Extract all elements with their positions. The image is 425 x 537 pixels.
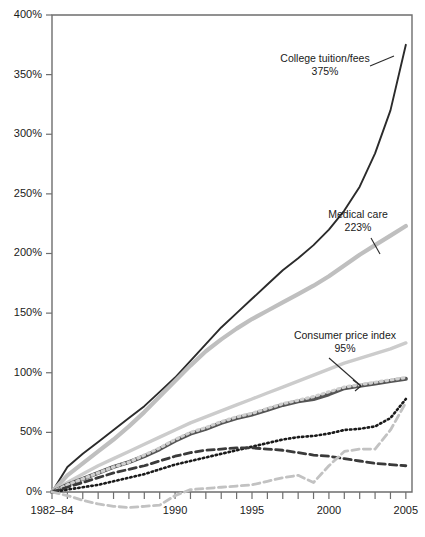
y-tick-label: 300% [14,127,42,139]
x-tick-label: 2005 [394,504,418,516]
x-tick-label: 2000 [317,504,341,516]
annotation-label: College tuition/fees [280,52,369,64]
chart-container: 0%50%100%150%200%250%300%350%400% 1982–8… [0,0,425,537]
x-tick-label: 1990 [163,504,187,516]
annotation-value: 375% [312,65,339,77]
y-tick-label: 150% [14,306,42,318]
y-tick-label: 350% [14,68,42,80]
annotation-value: 223% [345,221,372,233]
y-tick-label: 50% [20,425,42,437]
series-line [52,378,406,492]
y-tick-label: 100% [14,366,42,378]
x-axis-labels: 1982–841990199520002005 [31,504,419,516]
series-line [52,45,406,492]
y-tick-label: 200% [14,246,42,258]
annotation-label: Medical care [328,208,388,220]
data-series-group [52,45,406,508]
annotation-label: Consumer price index [294,329,397,341]
x-tick-label: 1982–84 [31,504,74,516]
y-tick-label: 400% [14,8,42,20]
x-tick-label: 1995 [240,504,264,516]
y-tick-label: 250% [14,187,42,199]
line-chart: 0%50%100%150%200%250%300%350%400% 1982–8… [0,0,425,537]
annotation-value: 95% [334,342,355,354]
y-tick-label: 0% [26,485,42,497]
y-axis-labels: 0%50%100%150%200%250%300%350%400% [14,8,42,497]
series-annotations: College tuition/fees375%Medical care223%… [280,52,396,391]
axis-ticks [46,15,406,499]
